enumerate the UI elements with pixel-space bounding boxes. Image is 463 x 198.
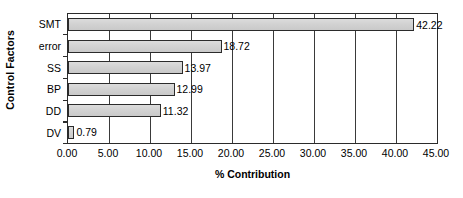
bar-slot-error: 18.72 xyxy=(68,36,437,58)
plot-area: 42.22 18.72 13.97 12.99 11.32 xyxy=(67,13,438,144)
y-axis-title: Control Factors xyxy=(0,0,20,140)
bar-error[interactable]: 18.72 xyxy=(68,40,222,53)
bar-dd[interactable]: 11.32 xyxy=(68,104,161,117)
y-tick-label-error: error xyxy=(18,35,65,57)
bar-dv[interactable]: 0.79 xyxy=(68,126,74,139)
bar-slot-ss: 13.97 xyxy=(68,57,437,79)
y-axis-title-label: Control Factors xyxy=(4,30,16,110)
bar-value-error: 18.72 xyxy=(224,40,250,52)
x-tick-label: 10.00 xyxy=(136,147,162,159)
bar-value-dv: 0.79 xyxy=(76,126,96,138)
x-tick-label: 0.00 xyxy=(57,147,77,159)
x-tick-label: 35.00 xyxy=(341,147,367,159)
y-tick-label-smt: SMT xyxy=(18,13,65,35)
x-axis-tick-labels: 0.005.0010.0015.0020.0025.0030.0035.0040… xyxy=(67,147,438,163)
y-tick-label-bp: BP xyxy=(18,78,65,100)
bar-value-ss: 13.97 xyxy=(185,62,211,74)
x-tick-label: 15.00 xyxy=(177,147,203,159)
y-tick-label-dd: DD xyxy=(18,100,65,122)
bar-slot-dv: 0.79 xyxy=(68,122,437,144)
x-tick-label: 45.00 xyxy=(423,147,449,159)
bar-slot-bp: 12.99 xyxy=(68,79,437,101)
y-tick-label-ss: SS xyxy=(18,57,65,79)
bar-chart-figure: Control Factors SMT error SS BP DD DV 42… xyxy=(0,0,463,198)
bar-slot-smt: 42.22 xyxy=(68,14,437,36)
bar-smt[interactable]: 42.22 xyxy=(68,18,414,31)
bar-value-smt: 42.22 xyxy=(416,19,442,31)
bar-bp[interactable]: 12.99 xyxy=(68,83,175,96)
bar-ss[interactable]: 13.97 xyxy=(68,61,183,74)
bar-value-dd: 11.32 xyxy=(163,105,189,117)
bars-layer: 42.22 18.72 13.97 12.99 11.32 xyxy=(68,14,437,143)
x-tick-label: 40.00 xyxy=(382,147,408,159)
bar-value-bp: 12.99 xyxy=(177,83,203,95)
y-axis-tick-labels: SMT error SS BP DD DV xyxy=(18,13,65,144)
y-tick-label-dv: DV xyxy=(18,122,65,144)
bar-slot-dd: 11.32 xyxy=(68,100,437,122)
x-tick-label: 25.00 xyxy=(259,147,285,159)
x-tick-label: 30.00 xyxy=(300,147,326,159)
x-tick-label: 5.00 xyxy=(98,147,118,159)
x-tick-label: 20.00 xyxy=(218,147,244,159)
x-axis-title: % Contribution xyxy=(67,168,438,180)
